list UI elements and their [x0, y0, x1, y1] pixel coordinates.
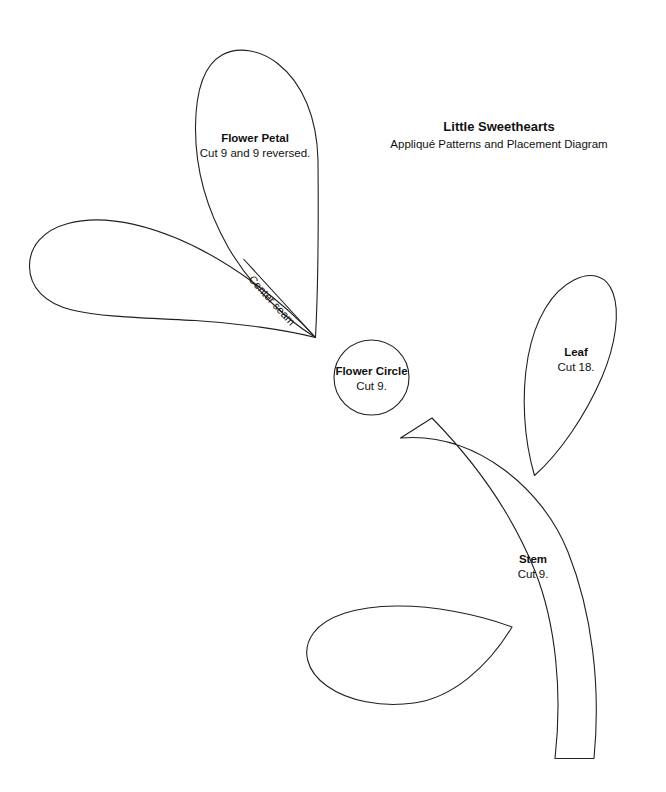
flower-petal-upper-outline: [195, 50, 318, 337]
flower-petal-cut-label: Cut 9 and 9 reversed.: [200, 147, 311, 159]
appliqué-pattern-diagram: Center seam Flower Petal Cut 9 and 9 rev…: [0, 0, 666, 792]
stem-name-label: Stem: [519, 553, 547, 565]
document-title: Little Sweethearts: [443, 119, 554, 134]
center-seam-label: Center seam: [246, 273, 297, 328]
flower-circle-cut-label: Cut 9.: [356, 380, 387, 392]
pattern-sheet: Center seam Flower Petal Cut 9 and 9 rev…: [0, 0, 666, 792]
flower-circle-name-label: Flower Circle: [335, 365, 407, 377]
leaf-outline: [524, 276, 616, 476]
flower-circle-outline: [334, 340, 409, 415]
flower-petal-lower-outline: [29, 220, 315, 337]
leaf-cut-label: Cut 18.: [557, 361, 594, 373]
stem-outline: [401, 418, 597, 759]
leaf-name-label: Leaf: [564, 346, 588, 358]
document-subtitle: Appliqué Patterns and Placement Diagram: [390, 138, 607, 150]
lower-leaf-outline: [307, 606, 512, 704]
flower-petal-name-label: Flower Petal: [221, 132, 289, 144]
stem-cut-label: Cut 9.: [518, 568, 549, 580]
